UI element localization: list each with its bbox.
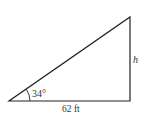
height-label: h — [133, 54, 138, 65]
base-label: 62 ft — [62, 104, 80, 114]
triangle-diagram: 34° 62 ft h — [0, 0, 144, 125]
angle-label: 34° — [32, 88, 46, 99]
right-triangle — [9, 17, 130, 101]
angle-arc — [26, 89, 30, 101]
